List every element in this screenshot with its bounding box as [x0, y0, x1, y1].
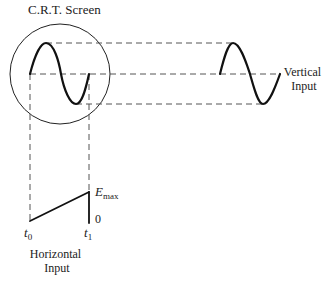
- zero-label: 0: [95, 212, 101, 226]
- crt-sweep-diagram: C.R.T. Screen Vertical Input Emax 0 t0 t…: [0, 0, 325, 284]
- emax-label: Emax: [94, 184, 119, 201]
- vertical-input-label: Vertical Input: [284, 65, 324, 93]
- horizontal-input-label: Horizontal Input: [30, 247, 84, 275]
- sweep-ramp: [30, 192, 89, 221]
- t1-label: t1: [84, 225, 92, 242]
- t0-label: t0: [24, 225, 33, 242]
- crt-screen-label: C.R.T. Screen: [28, 2, 101, 17]
